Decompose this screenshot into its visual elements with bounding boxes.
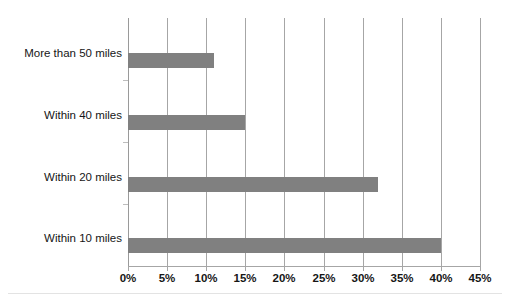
xtick-mark-5	[167, 266, 168, 271]
ytick-mark-3	[123, 204, 128, 205]
xtick-label-15: 15%	[225, 272, 265, 284]
xtick-label-30: 30%	[343, 272, 383, 284]
gridline-25	[324, 18, 325, 266]
xtick-label-25: 25%	[304, 272, 344, 284]
xtick-mark-35	[402, 266, 403, 271]
xtick-mark-30	[363, 266, 364, 271]
xtick-mark-25	[324, 266, 325, 271]
xtick-label-20: 20%	[264, 272, 304, 284]
chart-image: 0% 5% 10% 15% 20% 25% 30% 35% 40% 45% Mo…	[0, 0, 510, 300]
xtick-label-35: 35%	[382, 272, 422, 284]
xtick-mark-45	[480, 266, 481, 271]
value-axis-line	[128, 266, 481, 267]
xtick-mark-0	[128, 266, 129, 271]
gridline-45	[480, 18, 481, 266]
xtick-label-40: 40%	[421, 272, 461, 284]
xtick-label-10: 10%	[186, 272, 226, 284]
xtick-mark-40	[441, 266, 442, 271]
bar-within-20-miles	[128, 177, 378, 192]
bar-more-than-50-miles	[128, 53, 214, 68]
category-label-within-20-miles: Within 20 miles	[4, 171, 122, 184]
category-label-within-10-miles: Within 10 miles	[4, 232, 122, 245]
category-axis-labels: More than 50 miles Within 40 miles Withi…	[0, 0, 122, 300]
gridline-35	[402, 18, 403, 266]
category-label-within-40-miles: Within 40 miles	[4, 109, 122, 122]
xtick-label-45: 45%	[460, 272, 500, 284]
ytick-mark-1	[123, 80, 128, 81]
gridline-40	[441, 18, 442, 266]
xtick-mark-20	[284, 266, 285, 271]
page-rule-divider	[8, 293, 502, 294]
bar-within-40-miles	[128, 115, 245, 130]
gridline-15	[245, 18, 246, 266]
plot-area	[128, 18, 480, 266]
ytick-mark-2	[123, 142, 128, 143]
xtick-mark-15	[245, 266, 246, 271]
xtick-label-5: 5%	[147, 272, 187, 284]
bar-within-10-miles	[128, 238, 441, 253]
gridline-20	[284, 18, 285, 266]
category-label-more-than-50-miles: More than 50 miles	[4, 47, 122, 60]
gridline-30	[363, 18, 364, 266]
xtick-mark-10	[206, 266, 207, 271]
